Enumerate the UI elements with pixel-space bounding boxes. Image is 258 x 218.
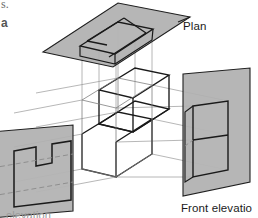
stray-text-fragment-top-secondary: a — [1, 17, 8, 29]
projector-front-4 — [116, 140, 193, 142]
side-elevation-label: elevation — [6, 210, 51, 218]
solid-lower-right-face — [116, 119, 152, 177]
stepped-solid-object — [82, 68, 169, 177]
front-elevation-label: Front elevatio — [181, 203, 252, 215]
plan-label: Plan — [183, 21, 206, 33]
projector-side-1 — [14, 100, 82, 113]
stray-text-fragment-top: s. — [1, 0, 9, 10]
projection-drawing — [0, 0, 258, 218]
projection-figure: Plan Front elevatio elevation s. a — [0, 0, 258, 218]
wireframe-bottom-face — [82, 154, 152, 177]
